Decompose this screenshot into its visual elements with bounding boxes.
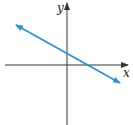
y-axis-label: y — [56, 1, 64, 15]
graph-line-left — [16, 25, 68, 54]
x-axis-label: x — [123, 66, 130, 80]
coordinate-plane: y x — [0, 0, 133, 125]
graph-line — [68, 54, 120, 83]
